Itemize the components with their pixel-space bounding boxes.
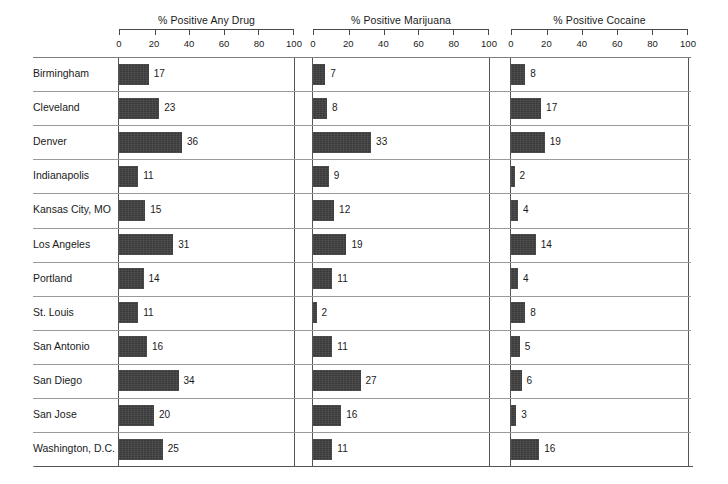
bar-value-label: 19 <box>351 239 362 250</box>
row-separator <box>33 330 691 331</box>
footer-rule <box>35 466 693 467</box>
xtick-20: 20 <box>149 38 160 49</box>
category-label-birmingham: Birmingham <box>33 67 117 79</box>
category-label-san-antonio: San Antonio <box>33 340 117 352</box>
bar <box>511 405 516 426</box>
bar-value-label: 8 <box>332 102 338 113</box>
bar <box>119 234 173 255</box>
bar <box>313 166 329 187</box>
bar <box>511 439 539 460</box>
category-label-los-angeles: Los Angeles <box>33 238 117 250</box>
bar-value-label: 11 <box>143 170 153 181</box>
bar-value-label: 7 <box>330 68 336 79</box>
row-separator <box>33 262 691 263</box>
x-axis-ticks-any-drug: 0 20 40 60 80 100 <box>119 38 294 50</box>
row-separator <box>33 432 691 433</box>
row-separator <box>33 364 691 365</box>
bar-value-label: 3 <box>521 409 527 420</box>
panel-bracket-marijuana <box>313 29 489 35</box>
bar <box>119 98 159 119</box>
bar-value-label: 6 <box>527 375 533 386</box>
category-label-san-jose: San Jose <box>33 408 117 420</box>
xtick-80: 80 <box>449 38 460 49</box>
xtick-80: 80 <box>647 38 658 49</box>
bar <box>511 370 522 391</box>
bar <box>313 302 317 323</box>
bar <box>511 166 515 187</box>
bar-value-label: 16 <box>544 443 555 454</box>
bar-value-label: 8 <box>530 307 536 318</box>
bar <box>511 234 536 255</box>
bar <box>119 200 145 221</box>
bar <box>511 132 545 153</box>
bar <box>313 132 371 153</box>
panel-bracket-any-drug <box>119 29 294 35</box>
bar <box>313 200 334 221</box>
category-label-san-diego: San Diego <box>33 374 117 386</box>
xtick-0: 0 <box>310 38 315 49</box>
bar-value-label: 31 <box>178 239 189 250</box>
panel-header-marijuana: % Positive Marijuana 0 20 40 60 80 100 <box>313 14 489 50</box>
xtick-80: 80 <box>254 38 265 49</box>
category-label-st-louis: St. Louis <box>33 306 117 318</box>
bar <box>119 370 179 391</box>
xtick-40: 40 <box>184 38 195 49</box>
category-label-cleveland: Cleveland <box>33 101 117 113</box>
row-separator <box>33 125 691 126</box>
bar-value-label: 15 <box>150 204 161 215</box>
bar-value-label: 20 <box>159 409 170 420</box>
bar <box>313 336 332 357</box>
xtick-60: 60 <box>612 38 623 49</box>
bar-value-label: 11 <box>143 307 153 318</box>
bar-value-label: 11 <box>337 273 347 284</box>
xtick-60: 60 <box>413 38 424 49</box>
bar-value-label: 34 <box>184 375 195 386</box>
bar-value-label: 17 <box>546 102 557 113</box>
bar-value-label: 36 <box>187 136 198 147</box>
row-separator <box>33 296 691 297</box>
panel-header-cocaine: % Positive Cocaine 0 20 40 60 80 100 <box>511 14 688 50</box>
category-label-washington-d-c: Washington, D.C. <box>33 442 117 454</box>
x-axis-ticks-cocaine: 0 20 40 60 80 100 <box>511 38 688 50</box>
bar-value-label: 5 <box>525 341 531 352</box>
bar-value-label: 11 <box>337 341 347 352</box>
panel-title-marijuana: % Positive Marijuana <box>313 14 489 26</box>
bar <box>511 268 518 289</box>
category-label-denver: Denver <box>33 135 117 147</box>
bar <box>313 405 341 426</box>
bar <box>313 370 361 391</box>
xtick-100: 100 <box>680 38 696 49</box>
bar <box>511 98 541 119</box>
xtick-60: 60 <box>219 38 230 49</box>
bar-value-label: 9 <box>334 170 340 181</box>
bar-value-label: 4 <box>523 204 529 215</box>
bar-value-label: 11 <box>337 443 347 454</box>
xtick-100: 100 <box>481 38 497 49</box>
xtick-40: 40 <box>378 38 389 49</box>
bar-value-label: 4 <box>523 273 529 284</box>
xtick-0: 0 <box>116 38 121 49</box>
bar <box>511 336 520 357</box>
bar-value-label: 19 <box>550 136 561 147</box>
bar <box>313 98 327 119</box>
bar-value-label: 25 <box>168 443 179 454</box>
bar-value-label: 14 <box>149 273 160 284</box>
bar <box>119 405 154 426</box>
bar <box>313 268 332 289</box>
x-axis-ticks-marijuana: 0 20 40 60 80 100 <box>313 38 489 50</box>
bar-value-label: 2 <box>322 307 328 318</box>
chart-figure: % Positive Any Drug 0 20 40 60 80 100 % … <box>0 0 728 484</box>
bar-value-label: 16 <box>346 409 357 420</box>
row-separator <box>33 193 691 194</box>
bar-value-label: 16 <box>152 341 163 352</box>
bar <box>511 64 525 85</box>
bar-value-label: 33 <box>376 136 387 147</box>
bar <box>313 234 346 255</box>
bar-value-label: 12 <box>339 204 350 215</box>
bar <box>119 268 144 289</box>
bar <box>119 336 147 357</box>
row-separator <box>33 159 691 160</box>
category-label-kansas-city-mo: Kansas City, MO <box>33 203 117 215</box>
row-separator <box>33 91 691 92</box>
panel-title-any-drug: % Positive Any Drug <box>119 14 294 26</box>
